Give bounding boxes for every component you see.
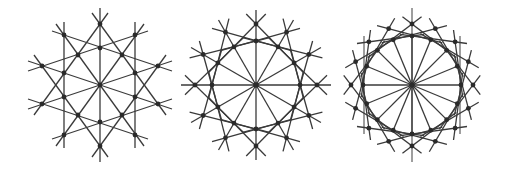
intersection-dot	[276, 121, 281, 126]
intersection-dot	[410, 34, 415, 39]
intersection-dot	[410, 22, 415, 27]
intersection-dot	[353, 106, 358, 111]
intersection-dot	[459, 83, 464, 88]
intersection-dot	[306, 52, 311, 57]
intersection-dot	[201, 113, 206, 118]
intersection-dot	[40, 102, 45, 107]
figure-16-fold-arrangement	[344, 8, 481, 162]
intersection-dot	[133, 133, 138, 138]
intersection-dot	[466, 59, 471, 64]
intersection-dot	[366, 39, 371, 44]
intersection-dot	[471, 83, 476, 88]
intersection-dot	[62, 33, 67, 38]
intersection-dot	[62, 71, 67, 76]
intersection-dot	[306, 113, 311, 118]
intersection-dot	[375, 48, 380, 53]
intersection-dot	[428, 37, 433, 42]
intersection-dot	[292, 105, 297, 110]
intersection-dot	[98, 22, 103, 27]
intersection-dot	[76, 113, 81, 118]
intersection-dot	[156, 64, 161, 69]
intersection-dot	[133, 95, 138, 100]
intersection-dot	[410, 132, 415, 137]
line-segment	[412, 50, 447, 85]
intersection-dot	[444, 48, 449, 53]
intersection-dot	[62, 133, 67, 138]
intersection-dot	[76, 53, 81, 58]
intersection-dot	[232, 44, 237, 49]
intersection-dot	[433, 139, 438, 144]
intersection-dot	[409, 82, 415, 88]
intersection-dot	[386, 139, 391, 144]
intersection-dot	[133, 71, 138, 76]
intersection-dot	[201, 52, 206, 57]
intersection-dot	[366, 126, 371, 131]
line-segment	[377, 85, 412, 120]
intersection-dot	[232, 121, 237, 126]
intersection-dot	[410, 144, 415, 149]
intersection-dot	[375, 117, 380, 122]
intersection-dot	[428, 128, 433, 133]
intersection-dot	[215, 61, 220, 66]
intersection-dot	[364, 64, 369, 69]
intersection-dot	[98, 83, 103, 88]
line-segment	[92, 13, 166, 115]
intersection-dot	[361, 83, 366, 88]
intersection-dot	[120, 53, 125, 58]
figure-hexagonal-arrangement	[28, 8, 172, 162]
intersection-dot	[433, 26, 438, 31]
intersection-dot	[453, 39, 458, 44]
line-segment	[412, 85, 447, 120]
intersection-dot	[353, 59, 358, 64]
intersection-dot	[453, 126, 458, 131]
intersection-dot	[62, 95, 67, 100]
intersection-dot	[156, 102, 161, 107]
intersection-dot	[254, 144, 259, 149]
intersection-dot	[40, 64, 45, 69]
intersection-dot	[349, 83, 354, 88]
line-arrangement-diagrams	[0, 0, 509, 171]
line-segment	[34, 55, 108, 157]
intersection-dot	[444, 117, 449, 122]
intersection-dot	[284, 30, 289, 35]
intersection-dot	[254, 22, 259, 27]
intersection-dot	[455, 101, 460, 106]
intersection-dot	[210, 83, 215, 88]
intersection-dot	[364, 101, 369, 106]
intersection-dot	[315, 83, 320, 88]
intersection-dot	[254, 39, 259, 44]
intersection-dot	[298, 83, 303, 88]
intersection-dot	[391, 128, 396, 133]
intersection-dot	[292, 61, 297, 66]
line-segment	[92, 55, 166, 157]
intersection-dot	[254, 127, 259, 132]
intersection-dot	[276, 44, 281, 49]
intersection-dot	[284, 135, 289, 140]
intersection-dot	[223, 135, 228, 140]
intersection-dot	[120, 113, 125, 118]
intersection-dot	[223, 30, 228, 35]
intersection-dot	[253, 82, 259, 88]
figure-12-fold-arrangement	[181, 10, 331, 160]
intersection-dot	[98, 46, 103, 51]
intersection-dot	[215, 105, 220, 110]
line-segment	[377, 50, 412, 85]
intersection-dot	[386, 26, 391, 31]
intersection-dot	[193, 83, 198, 88]
intersection-dot	[98, 144, 103, 149]
line-segment	[34, 13, 108, 115]
intersection-dot	[466, 106, 471, 111]
intersection-dot	[98, 120, 103, 125]
intersection-dot	[133, 33, 138, 38]
intersection-dot	[455, 64, 460, 69]
intersection-dot	[391, 37, 396, 42]
